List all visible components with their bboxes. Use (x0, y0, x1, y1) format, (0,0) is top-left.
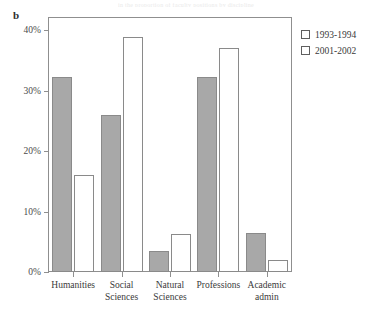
y-axis-label: 30% (24, 86, 41, 96)
bar-series2 (74, 175, 94, 272)
open-white-swatch-icon (301, 46, 310, 55)
filled-gray-swatch-icon (301, 30, 310, 39)
bar-series2 (268, 260, 288, 272)
y-axis-tick (44, 272, 49, 273)
legend-item: 2001-2002 (301, 44, 356, 57)
bar-series1 (246, 233, 266, 272)
y-axis-label: 10% (24, 207, 41, 217)
bar-series2 (123, 37, 143, 272)
bar-series1 (149, 251, 169, 272)
y-axis-label: 40% (24, 25, 41, 35)
plot-area: 0%10%20%30%40%HumanitiesSocial SciencesN… (49, 18, 291, 272)
bar-group (243, 18, 291, 272)
legend-label: 1993-1994 (315, 30, 356, 40)
chart-legend: 1993-1994 2001-2002 (301, 28, 356, 60)
bar-group (97, 18, 145, 272)
bar-group (49, 18, 97, 272)
legend-label: 2001-2002 (315, 46, 356, 56)
bar-group (194, 18, 242, 272)
bar-series2 (219, 48, 239, 272)
x-axis-tick (218, 272, 219, 277)
y-axis-label: 0% (28, 267, 41, 277)
bar-group (146, 18, 194, 272)
x-axis-category-label: Academic admin (235, 280, 299, 303)
x-axis-tick (267, 272, 268, 277)
panel-label: b (13, 9, 19, 21)
figure-panel-b: in the proportion of faculty positions b… (0, 0, 375, 313)
bar-series1 (101, 115, 121, 272)
legend-item: 1993-1994 (301, 28, 356, 41)
bar-series1 (52, 77, 72, 272)
x-axis-tick (170, 272, 171, 277)
bar-series2 (171, 234, 191, 272)
x-axis-tick (73, 272, 74, 277)
y-axis-label: 20% (24, 146, 41, 156)
cropped-page-header-artifact: in the proportion of faculty positions b… (118, 3, 370, 7)
bar-series1 (197, 77, 217, 272)
x-axis-tick (122, 272, 123, 277)
